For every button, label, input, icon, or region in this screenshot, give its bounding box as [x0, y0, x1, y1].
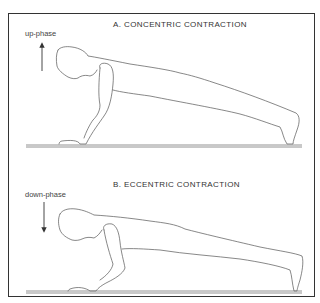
diagram-canvas — [0, 0, 320, 303]
panel-a-head-outline — [56, 50, 97, 79]
panel-b-body-outline — [60, 209, 303, 291]
panel-b-figure — [26, 209, 303, 293]
panel-b-head-outline — [59, 214, 103, 240]
panel-b-arm-outline — [68, 224, 125, 291]
panel-a-body-outline — [58, 47, 299, 144]
panel-a-figure — [26, 47, 302, 147]
